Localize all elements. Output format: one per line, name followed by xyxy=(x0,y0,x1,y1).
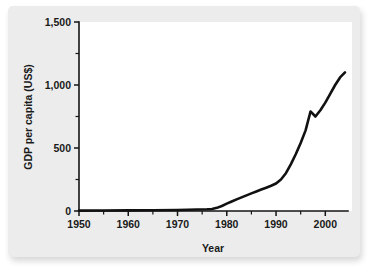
x-tick-label: 1950 xyxy=(67,218,91,230)
x-tick-label: 1990 xyxy=(264,218,288,230)
y-tick-label: 1,500 xyxy=(45,16,71,28)
x-axis-title: Year xyxy=(202,242,224,254)
y-tick-label: 500 xyxy=(53,142,71,154)
plot-area-background xyxy=(79,22,352,211)
x-tick-label: 1970 xyxy=(166,218,190,230)
x-tick-label: 1980 xyxy=(215,218,239,230)
y-tick-label: 1,000 xyxy=(45,79,71,91)
x-tick-label: 1960 xyxy=(117,218,141,230)
x-axis-tick-labels: 195019601970198019902000 xyxy=(67,218,337,230)
chart-figure: 05001,0001,500 195019601970198019902000 … xyxy=(0,0,370,277)
y-axis-title: GDP per capita (US$) xyxy=(22,64,34,169)
y-axis-tick-labels: 05001,0001,500 xyxy=(45,16,71,217)
y-tick-label: 0 xyxy=(65,205,71,217)
x-tick-label: 2000 xyxy=(314,218,338,230)
gdp-per-capita-line-chart: 05001,0001,500 195019601970198019902000 … xyxy=(0,0,370,277)
